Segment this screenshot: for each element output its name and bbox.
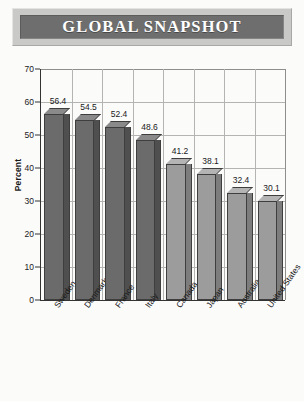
x-gridline	[194, 69, 195, 300]
y-tick-label: 20	[25, 229, 34, 239]
header-banner: GLOBAL SNAPSHOT	[20, 15, 284, 39]
y-tick-label: 30	[25, 196, 34, 206]
bar[interactable]	[166, 164, 186, 300]
bar-value-label: 54.5	[80, 102, 97, 112]
bar-value-label: 56.4	[50, 96, 67, 106]
bar-side-face	[155, 140, 161, 300]
header-banner-frame: GLOBAL SNAPSHOT	[12, 8, 292, 46]
bar-value-label: 32.4	[233, 175, 250, 185]
bar-value-label: 41.2	[172, 146, 189, 156]
y-tick-mark	[35, 234, 40, 235]
x-gridline	[102, 69, 103, 300]
bar-front-face	[197, 174, 217, 300]
x-gridline	[224, 69, 225, 300]
bar-side-face	[64, 114, 70, 300]
bar-front-face	[44, 114, 64, 300]
x-gridline	[133, 69, 134, 300]
x-gridline	[72, 69, 73, 300]
y-tick-mark	[35, 102, 40, 103]
bar-side-face	[125, 127, 131, 300]
y-axis-title: Percent	[13, 145, 23, 205]
bar[interactable]	[136, 140, 156, 300]
page-title: GLOBAL SNAPSHOT	[62, 17, 241, 37]
bar-side-face	[94, 120, 100, 300]
y-tick-mark	[35, 135, 40, 136]
bar-side-face	[216, 174, 222, 300]
y-tick-mark	[35, 267, 40, 268]
y-tick-mark	[35, 201, 40, 202]
bar[interactable]	[258, 201, 278, 300]
x-gridline	[255, 69, 256, 300]
y-tick-label: 40	[25, 163, 34, 173]
bar[interactable]	[197, 174, 217, 300]
y-tick-label: 0	[29, 295, 34, 305]
bar-front-face	[136, 140, 156, 300]
bar[interactable]	[75, 120, 95, 300]
bar-front-face	[105, 127, 125, 300]
x-gridline	[285, 69, 286, 300]
plot-area: 01020304050607056.4Sweden54.5Denmark52.4…	[40, 69, 285, 301]
y-tick-mark	[35, 300, 40, 301]
y-tick-label: 70	[25, 64, 34, 74]
y-tick-label: 60	[25, 97, 34, 107]
y-tick-label: 50	[25, 130, 34, 140]
y-tick-label: 10	[25, 262, 34, 272]
bar[interactable]	[227, 193, 247, 300]
bar-value-label: 30.1	[263, 183, 280, 193]
y-tick-mark	[35, 69, 40, 70]
x-gridline	[163, 69, 164, 300]
bar-front-face	[166, 164, 186, 300]
bar-value-label: 48.6	[141, 122, 158, 132]
bar-front-face	[75, 120, 95, 300]
bar-front-face	[258, 201, 278, 300]
y-tick-mark	[35, 168, 40, 169]
bar-value-label: 38.1	[202, 156, 219, 166]
bar-front-face	[227, 193, 247, 300]
bar[interactable]	[105, 127, 125, 300]
bar[interactable]	[44, 114, 64, 300]
bar-value-label: 52.4	[111, 109, 128, 119]
bar-chart: Percent 01020304050607056.4Sweden54.5Den…	[0, 52, 304, 401]
